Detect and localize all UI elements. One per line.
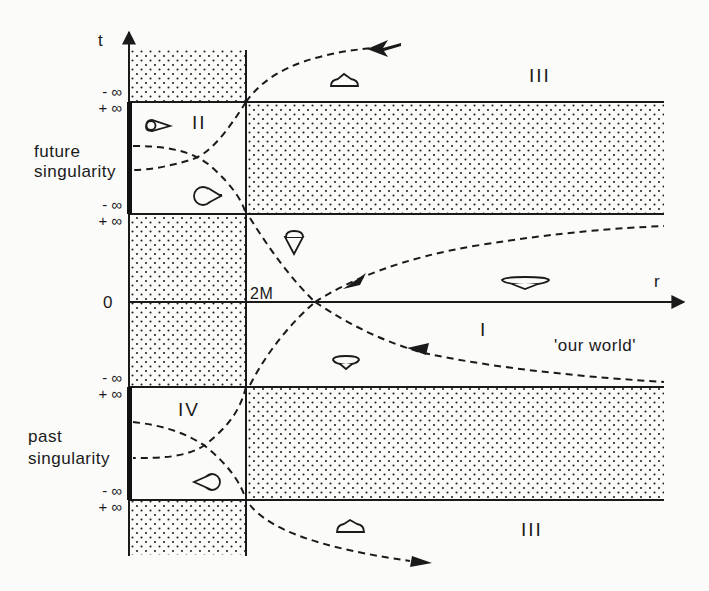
light-cone-icon [337, 520, 364, 532]
geodesic-I-lower-left [250, 302, 315, 385]
dotted-strip-bottom [129, 500, 246, 555]
region-III-label-bottom: III [521, 520, 543, 539]
light-cone-icon [333, 356, 359, 369]
light-cone-icon [502, 277, 549, 289]
light-cone-icon [331, 74, 358, 86]
geodesic-III-top [246, 48, 372, 102]
geodesic-I-outgoing [315, 226, 664, 302]
t-axis-label: t [98, 32, 103, 49]
past-singularity-label-line1: past [28, 428, 62, 445]
origin-label: 0 [103, 294, 113, 311]
minus-infinity-label: - ∞ [72, 370, 122, 385]
plus-infinity-label: + ∞ [72, 100, 122, 115]
horizon-label-2M: 2M [250, 286, 273, 302]
plus-infinity-label: + ∞ [72, 499, 122, 514]
plus-infinity-label: + ∞ [72, 213, 122, 228]
region-II-label: II [192, 113, 207, 132]
arrow-I-ingoing [407, 343, 429, 355]
region-II-area [130, 103, 245, 213]
dotted-strip-middle [129, 214, 246, 387]
geodesic-III-bottom [250, 505, 410, 561]
minus-infinity-label: - ∞ [72, 197, 122, 212]
future-singularity-label-line1: future [34, 143, 80, 160]
plus-infinity-label: + ∞ [72, 386, 122, 401]
arrow-III-bottom [410, 556, 432, 567]
past-singularity-label-line2: singularity [28, 450, 110, 467]
dotted-strip-top [129, 50, 246, 102]
region-IV-label: IV [178, 400, 200, 419]
light-cone-icon [285, 231, 303, 254]
minus-infinity-label: - ∞ [72, 483, 122, 498]
past-singularity-bar [127, 387, 132, 500]
dotted-band-upper [246, 102, 664, 214]
future-singularity-bar [127, 102, 132, 214]
r-axis-label: r [654, 273, 660, 290]
our-world-label: 'our world' [554, 337, 636, 354]
dotted-band-lower [246, 387, 664, 500]
arrow-III-top [367, 40, 401, 57]
arrow-I-outgoing [343, 273, 366, 289]
minus-infinity-label: - ∞ [72, 84, 122, 99]
region-III-label-top: III [529, 66, 551, 85]
region-I-label: I [480, 320, 487, 339]
schwarzschild-diagram: t r 0 2M - ∞ + ∞ - ∞ + ∞ - ∞ + ∞ - ∞ + ∞… [0, 0, 709, 591]
future-singularity-label-line2: singularity [34, 163, 116, 180]
